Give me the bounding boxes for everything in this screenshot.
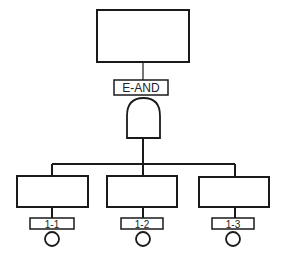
top-event-box	[97, 10, 189, 62]
and-gate-icon	[127, 98, 160, 138]
gate-label: E-AND	[122, 81, 160, 95]
event-id-1: 1-1	[45, 219, 60, 230]
event-id-2: 1-2	[135, 219, 150, 230]
basic-event-circle-icon-3	[226, 232, 240, 246]
fault-tree-diagram: E-AND 1-1 1-2 1-3	[0, 0, 285, 262]
child-event-box-1	[17, 176, 88, 207]
basic-event-circle-icon-2	[136, 232, 150, 246]
basic-event-circle-icon-1	[45, 232, 59, 246]
child-event-box-2	[107, 176, 177, 207]
child-event-box-3	[199, 177, 269, 207]
event-id-3: 1-3	[226, 219, 241, 230]
